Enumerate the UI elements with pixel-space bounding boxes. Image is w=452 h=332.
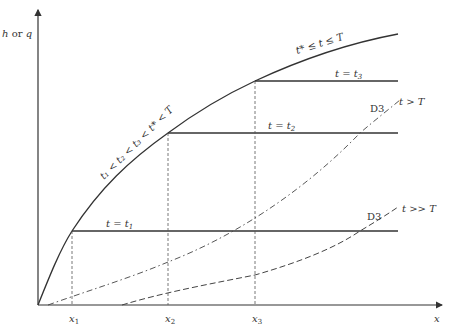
- level-label-t3: t = t3: [335, 68, 363, 81]
- dashed-tag: D3: [367, 211, 381, 222]
- dashed-condition: t >> T: [402, 203, 437, 214]
- envelope-lower-label: t₁ < t₂ < t₃ < t* < T: [98, 103, 177, 182]
- x-axis-label: x: [434, 313, 440, 324]
- x-tick-x3: x3: [252, 313, 262, 326]
- dashed-curve: [122, 207, 398, 305]
- diagram: h or q x x1 x2 x3 t = t1 t = t2 t = t3 t…: [0, 0, 452, 332]
- dash-dot-curve: [48, 100, 400, 305]
- envelope-upper-label: t* ≤ t ≤ T: [294, 31, 346, 56]
- x-tick-x1: x1: [69, 313, 79, 326]
- y-axis-label: h or q: [2, 28, 32, 39]
- level-label-t2: t = t2: [268, 120, 296, 133]
- dash-dot-tag: D3: [370, 103, 384, 114]
- x-tick-x2: x2: [165, 313, 175, 326]
- dash-dot-condition: t > T: [399, 96, 426, 107]
- level-label-t1: t = t1: [106, 218, 133, 231]
